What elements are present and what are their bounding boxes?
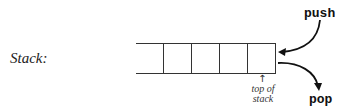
pop-label: pop [309,92,332,107]
top-of-stack-line2: stack [246,94,280,104]
arrows [0,0,354,110]
push-label: push [304,6,335,21]
pop-arrow-icon [278,63,318,86]
top-of-stack-label: top of stack [246,84,280,104]
push-arrow-icon [282,20,320,52]
